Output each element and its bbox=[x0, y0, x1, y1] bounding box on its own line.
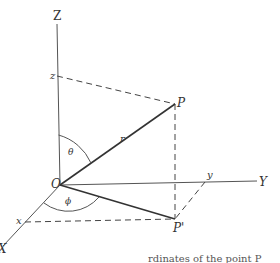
z-axis bbox=[57, 24, 60, 185]
dashed-y-to-pprime bbox=[175, 182, 205, 219]
y-intercept-label: y bbox=[206, 169, 213, 180]
origin-label: O bbox=[51, 177, 61, 191]
figure-caption: rdinates of the point P bbox=[148, 253, 262, 263]
z-intercept-label: z bbox=[49, 70, 56, 81]
phi-arc bbox=[44, 197, 99, 211]
point-pprime-label: P' bbox=[172, 221, 184, 235]
spherical-coordinates-diagram: Z Y X z y x P P' O r θ ϕ rdinates of the… bbox=[0, 0, 280, 263]
x-axis-label: X bbox=[0, 242, 7, 256]
x-axis bbox=[3, 185, 60, 246]
z-axis-label: Z bbox=[53, 9, 61, 23]
phi-label: ϕ bbox=[65, 196, 71, 206]
dashed-x-to-pprime bbox=[25, 219, 175, 222]
dashed-z-to-p bbox=[57, 76, 175, 104]
theta-arc bbox=[59, 135, 92, 163]
theta-label: θ bbox=[68, 147, 74, 157]
y-axis-label: Y bbox=[259, 175, 268, 189]
x-intercept-label: x bbox=[16, 215, 22, 226]
projection-vector-opprime bbox=[60, 185, 175, 219]
point-p-label: P bbox=[176, 96, 186, 110]
y-axis bbox=[60, 181, 257, 185]
